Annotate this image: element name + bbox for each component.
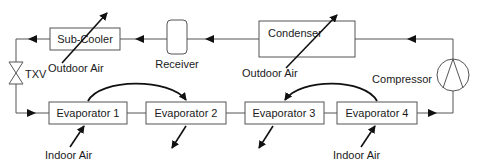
- evap2-exhaust-air-arrow-icon: [172, 126, 186, 148]
- condenser: Condenser: [259, 21, 355, 57]
- txv: TXV: [9, 62, 47, 84]
- flow-arrow-icon: [135, 35, 144, 43]
- air-transfer-curve-arrow-icon: [285, 84, 377, 101]
- subcooler-label: Sub-Cooler: [57, 33, 113, 45]
- evaporator-3: Evaporator 3: [245, 102, 324, 124]
- evaporator-3-label: Evaporator 3: [253, 107, 316, 119]
- evap3-exhaust-air-arrow-icon: [259, 126, 273, 148]
- evaporator-4: Evaporator 4: [337, 102, 417, 124]
- condenser-outdoor-air-label: Outdoor Air: [242, 67, 298, 79]
- evaporator-4-label: Evaporator 4: [346, 107, 409, 119]
- evap1-indoor-air-label: Indoor Air: [45, 149, 92, 161]
- flow-arrow-icon: [205, 35, 214, 43]
- compressor: Compressor: [372, 59, 469, 91]
- evaporator-2-label: Evaporator 2: [155, 107, 218, 119]
- refrigeration-cycle-diagram: Sub-Cooler Outdoor Air Receiver Condense…: [0, 0, 480, 167]
- txv-label: TXV: [25, 68, 47, 80]
- evap4-indoor-air-label: Indoor Air: [333, 149, 380, 161]
- evap1-indoor-air-arrow-icon: [70, 126, 84, 147]
- evap4-indoor-air-arrow-icon: [361, 126, 375, 147]
- compressor-label: Compressor: [372, 73, 432, 85]
- flow-arrow-icon: [407, 35, 416, 43]
- evaporator-2: Evaporator 2: [146, 102, 226, 124]
- flow-arrow-icon: [27, 109, 36, 117]
- evaporator-1-label: Evaporator 1: [57, 107, 120, 119]
- compressor-icon: [437, 59, 469, 91]
- condenser-label: Condenser: [268, 27, 322, 39]
- evaporator-1: Evaporator 1: [49, 102, 127, 124]
- subcooler: Sub-Cooler: [50, 28, 120, 50]
- air-transfer-curve-arrow-icon: [88, 84, 186, 101]
- receiver-label: Receiver: [155, 58, 199, 70]
- subcooler-outdoor-air-label: Outdoor Air: [48, 62, 104, 74]
- flow-arrow-icon: [428, 109, 437, 117]
- receiver: Receiver: [155, 20, 199, 70]
- flow-arrow-icon: [28, 35, 37, 43]
- expansion-valve-icon: [9, 62, 23, 84]
